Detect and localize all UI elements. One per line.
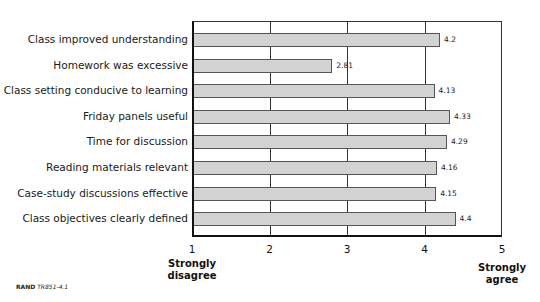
bar	[194, 33, 440, 47]
gridline	[270, 22, 271, 235]
bar	[194, 161, 437, 175]
category-label: Reading materials relevant	[46, 160, 188, 174]
scale-anchor-high: Strongly agree	[467, 262, 537, 286]
bar	[194, 187, 436, 201]
category-label: Class improved understanding	[28, 32, 188, 46]
gridline	[425, 22, 426, 235]
scale-anchor-low-line2: disagree	[157, 270, 227, 282]
bar	[194, 59, 332, 73]
gridline	[347, 22, 348, 235]
bar-value-label: 4.15	[440, 187, 457, 201]
scale-anchor-low: Strongly disagree	[157, 258, 227, 282]
bar	[194, 110, 450, 124]
source-caption: RAND TR851-4.1	[16, 283, 68, 290]
x-tick-label: 3	[337, 243, 357, 255]
x-tick-label: 4	[415, 243, 435, 255]
bar-value-label: 2.81	[336, 59, 353, 73]
category-label: Time for discussion	[87, 134, 188, 148]
bar-value-label: 4.16	[441, 161, 458, 175]
category-label: Class objectives clearly defined	[22, 211, 188, 225]
scale-anchor-high-line1: Strongly	[467, 262, 537, 274]
x-tick-label: 2	[260, 243, 280, 255]
source-org: RAND	[16, 283, 35, 290]
bar	[194, 135, 447, 149]
x-tick-label: 1	[182, 243, 202, 255]
bar-chart: Class improved understandingHomework was…	[0, 0, 540, 302]
bar-value-label: 4.33	[454, 110, 471, 124]
plot-area: 4.22.814.134.334.294.164.154.4	[192, 21, 502, 237]
bar	[194, 212, 456, 226]
scale-anchor-low-line1: Strongly	[157, 258, 227, 270]
category-label: Friday panels useful	[83, 109, 188, 123]
x-tick-label: 5	[492, 243, 512, 255]
bar-value-label: 4.13	[439, 84, 456, 98]
bar-value-label: 4.29	[451, 135, 468, 149]
source-id: TR851-4.1	[37, 283, 68, 290]
bar-value-label: 4.4	[460, 212, 472, 226]
category-label: Class setting conducive to learning	[4, 83, 188, 97]
scale-anchor-high-line2: agree	[467, 274, 537, 286]
category-label: Homework was excessive	[53, 58, 188, 72]
bar	[194, 84, 435, 98]
category-label: Case-study discussions effective	[17, 186, 188, 200]
bar-value-label: 4.2	[444, 33, 456, 47]
